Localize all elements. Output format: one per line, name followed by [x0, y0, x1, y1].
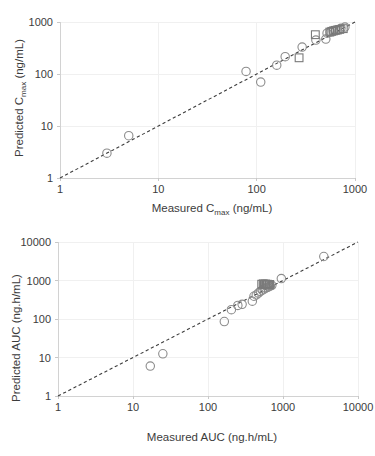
x-tick-label: 1	[57, 183, 63, 195]
y-tick-label: 1	[47, 172, 53, 184]
cmax-x-axis-title: Measured Cmax (ng/mL)	[152, 202, 273, 217]
cmax-tick-labels: 11010010001101001000	[29, 16, 368, 195]
y-tick-label: 1	[45, 390, 51, 402]
x-tick-label: 1000	[343, 183, 367, 195]
x-tick-label: 10	[152, 183, 164, 195]
auc-y-axis-title: Predicted AUC (ng.h/mL)	[10, 274, 22, 402]
y-tick-label: 10	[39, 352, 51, 364]
panel-auc: 110100100010000110100100010000 Measured …	[0, 228, 375, 456]
auc-x-axis-title: Measured AUC (ng.h/mL)	[147, 431, 278, 443]
cmax-y-axis-title: Predicted Cmax (ng/mL)	[13, 39, 28, 157]
x-tick-label: 1000	[271, 401, 295, 413]
panel-cmax: 11010010001101001000 Measured Cmax (ng/m…	[0, 0, 375, 228]
y-tick-label: 10000	[20, 236, 51, 248]
y-tick-label: 10	[41, 120, 53, 132]
x-tick-label: 100	[247, 183, 265, 195]
cmax-plot: 11010010001101001000 Measured Cmax (ng/m…	[0, 0, 375, 228]
auc-data-markers	[146, 252, 328, 370]
x-tick-label: 100	[199, 401, 217, 413]
auc-tick-labels: 110100100010000110100100010000	[20, 236, 373, 413]
cmax-axes	[57, 22, 355, 181]
y-tick-label: 1000	[29, 16, 53, 28]
y-tick-label: 1000	[27, 275, 51, 287]
y-tick-label: 100	[35, 68, 53, 80]
cmax-identity-line	[60, 22, 355, 178]
auc-plot: 110100100010000110100100010000 Measured …	[0, 228, 375, 456]
y-tick-label: 100	[33, 313, 51, 325]
cmax-gridlines	[60, 22, 355, 178]
x-tick-label: 1	[55, 401, 61, 413]
x-tick-label: 10	[127, 401, 139, 413]
figure-goodness-of-fit: 11010010001101001000 Measured Cmax (ng/m…	[0, 0, 375, 456]
x-tick-label: 10000	[343, 401, 374, 413]
